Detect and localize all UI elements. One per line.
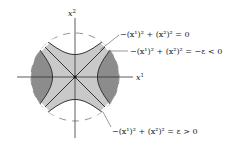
origin-dot — [74, 76, 77, 79]
x1-axis-label: x1 — [136, 72, 144, 82]
annotation-negative-level: −(x¹)² + (x²)² = −ε < 0 — [130, 47, 222, 56]
annotation-null-cone: −(x¹)² + (x²)² = 0 — [120, 30, 190, 39]
x2-axis-label: x2 — [68, 8, 76, 18]
leader-positive-level — [103, 112, 111, 127]
hyperbola-diagram: x2 x1 −(x¹)² + (x²)² = 0 −(x¹)² + (x²)² … — [0, 0, 251, 149]
annotation-positive-level: −(x¹)² + (x²)² = ε > 0 — [112, 127, 198, 136]
